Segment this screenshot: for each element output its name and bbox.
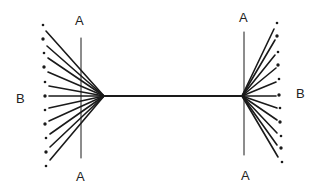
right-terminal-dot-6 <box>277 93 280 96</box>
right-terminal-dot-3 <box>277 51 280 54</box>
left-terminal-dot-2 <box>41 37 44 40</box>
fan-connector-diagram: A A A A B B <box>0 0 316 189</box>
left-fan-wire-8 <box>49 96 104 121</box>
label-left-bottom-A: A <box>76 169 85 184</box>
label-left-top-A: A <box>75 13 84 28</box>
left-fan <box>41 24 104 168</box>
right-fan-wire-2 <box>242 40 275 96</box>
right-terminal-dot-8 <box>278 120 281 123</box>
right-terminal-dot-2 <box>275 34 278 37</box>
right-fan-wire-8 <box>242 96 277 120</box>
label-left-B: B <box>16 91 25 106</box>
left-fan-wire-10 <box>50 96 104 147</box>
right-terminal-dot-7 <box>279 107 282 110</box>
right-terminal-dot-9 <box>280 135 283 138</box>
left-terminal-dot-5 <box>44 81 47 84</box>
label-right-B: B <box>296 86 305 101</box>
left-terminal-dot-4 <box>42 65 45 68</box>
right-fan-wire-4 <box>242 68 276 96</box>
left-terminal-dot-10 <box>44 150 47 153</box>
right-terminal-dot-10 <box>279 146 282 149</box>
left-terminal-dot-1 <box>42 24 45 27</box>
left-fan-wire-4 <box>48 72 104 96</box>
label-right-bottom-A: A <box>241 168 250 183</box>
right-terminal-dot-4 <box>276 63 279 66</box>
right-terminal-dot-1 <box>276 22 279 25</box>
right-fan-wire-11 <box>242 96 278 157</box>
label-right-top-A: A <box>239 10 248 25</box>
left-fan-wire-2 <box>47 46 104 96</box>
left-terminal-dot-6 <box>43 94 46 97</box>
left-terminal-dot-7 <box>44 109 47 112</box>
left-terminal-dot-9 <box>45 137 48 140</box>
left-terminal-dot-3 <box>43 52 46 55</box>
right-fan <box>242 22 283 164</box>
left-terminal-dot-8 <box>43 122 46 125</box>
right-terminal-dot-5 <box>278 78 281 81</box>
left-terminal-dot-11 <box>45 165 48 168</box>
right-terminal-dot-11 <box>281 161 284 164</box>
